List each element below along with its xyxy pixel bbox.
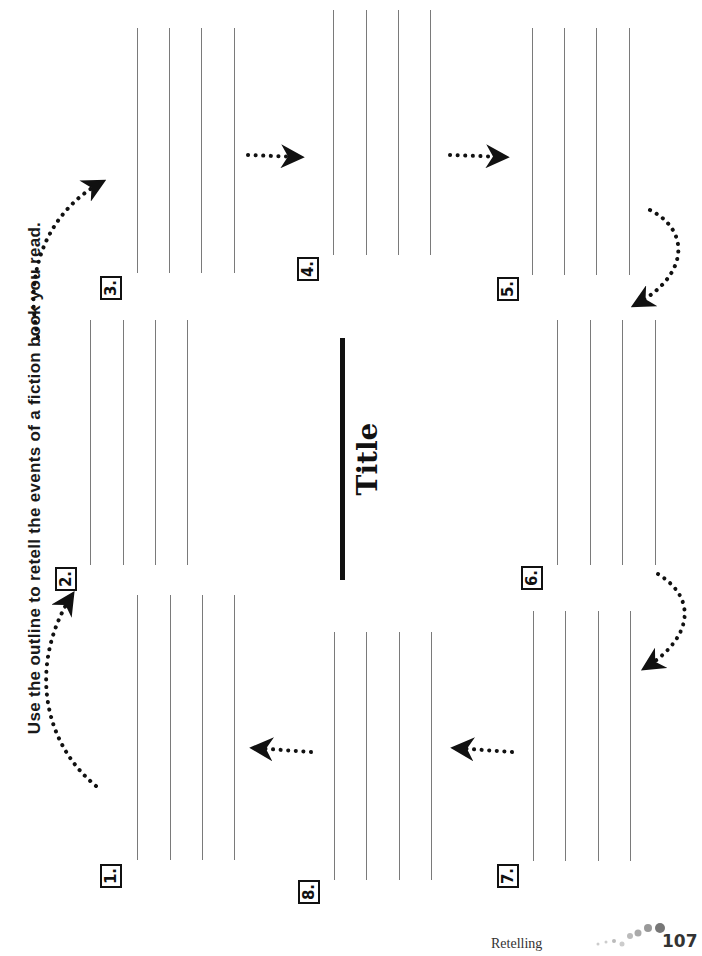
arrow-6-to-7 <box>645 574 685 668</box>
arrow-8-to-1 <box>254 748 311 752</box>
arrow-4-to-5 <box>450 155 505 157</box>
arrow-1-to-2 <box>46 595 96 786</box>
sequence-arrows <box>0 0 702 956</box>
arrow-3-to-4 <box>248 155 300 157</box>
arrow-2-to-3 <box>34 182 102 337</box>
arrow-7-to-8 <box>455 748 512 752</box>
arrow-5-to-6 <box>635 210 678 305</box>
page-number: 107 <box>662 931 698 951</box>
section-label: Retelling <box>491 936 542 952</box>
bead-decoration-icon <box>597 923 666 947</box>
